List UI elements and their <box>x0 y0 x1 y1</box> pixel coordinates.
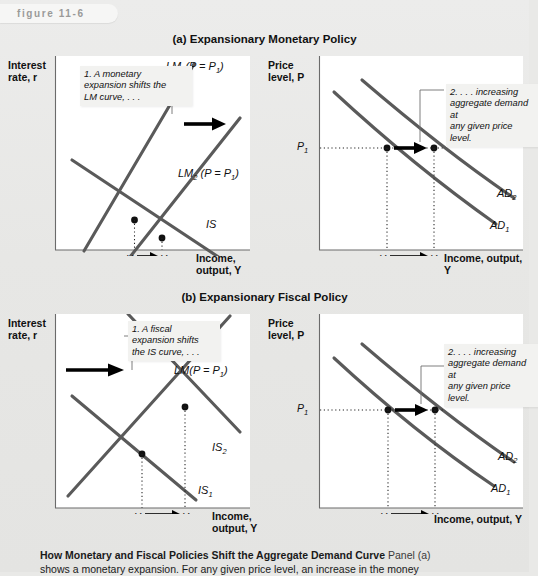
tick-label-y1: Y1 <box>126 253 137 256</box>
chart-b-left-x-axis-label: Income, output, Y <box>212 510 257 534</box>
panel-a-title: (a) Expansionary Monetary Policy <box>0 33 529 45</box>
x-axis-shift-arrow <box>391 510 431 514</box>
x-axis-shift-arrow <box>137 252 160 256</box>
callout-a-right: 2. . . . increasing aggregate demand at … <box>446 84 538 147</box>
callout-b-left: 1. A fiscal expansion shifts the IS curv… <box>128 321 220 361</box>
figure-caption: How Monetary and Fiscal Policies Shift t… <box>40 549 507 576</box>
callout-b-right: 2. . . . increasing aggregate demand at … <box>444 344 538 407</box>
curve-label-is: IS <box>206 218 217 230</box>
caption-title: How Monetary and Fiscal Policies Shift t… <box>40 549 385 561</box>
x-axis-shift-arrow <box>145 510 182 514</box>
tick-label-p1-a: P1 <box>297 140 308 155</box>
tick-label-y1: Y1 <box>379 253 390 256</box>
tick-label-y2: Y2 <box>430 253 442 256</box>
tick-label-y1: Y1 <box>380 511 391 514</box>
tick-label-y2: Y2 <box>182 511 194 514</box>
caption-line2: shows a monetary expansion. For any give… <box>40 563 507 576</box>
panel-b-title: (b) Expansionary Fiscal Policy <box>0 291 529 303</box>
chart-b-right-y-axis-label: Price level, P <box>268 317 304 341</box>
chart-a-left-x-axis-label: Income, output, Y <box>196 252 241 276</box>
figure-number-label: figure 11-6 <box>0 4 118 19</box>
chart-a-right-y-axis-label: Price level, P <box>268 59 304 83</box>
caption-body: Panel (a) <box>388 549 431 561</box>
callout-a-left: 1. A monetary expansion shifts the LM cu… <box>80 66 192 106</box>
x-axis-shift-arrow <box>390 252 430 256</box>
chart-a-right-x-axis-label: Income, output, Y <box>444 252 529 276</box>
chart-a-left-y-axis-label: Interest rate, r <box>8 59 46 83</box>
tick-label-p1-b: P1 <box>297 402 308 417</box>
figure-number-badge: figure 11-6 <box>0 4 118 23</box>
chart-b-right-x-axis-label: Income, output, Y <box>434 513 522 525</box>
tick-label-y1: Y1 <box>134 511 145 514</box>
chart-b-left-y-axis-label: Interest rate, r <box>8 317 46 341</box>
tick-label-y2: Y2 <box>160 253 172 256</box>
